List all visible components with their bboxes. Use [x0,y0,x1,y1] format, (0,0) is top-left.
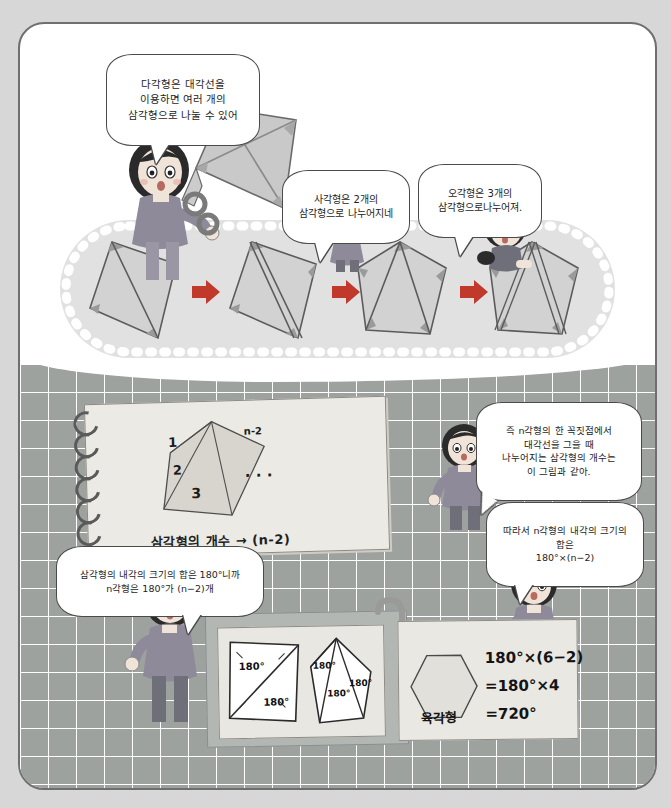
calc-line-3: =720° [485,704,537,723]
notebook-label-3: 3 [191,485,201,501]
hexagon-label: 육각형 [421,707,457,726]
bubble-left-girl-text: 삼각형의 내각의 크기의 합은 180°니까 n각형은 180°가 (n−2)개 [80,569,241,594]
bubble-pigtail-girl-text: 오각형은 3개의 삼각형으로나누어져. [438,188,522,214]
bubble-boy: 사각형은 2개의 삼각형으로 나누어지네 [282,170,410,244]
notebook: 1 2 3 n-2 · · · 삼각형의 개수 → (n-2) [84,396,390,558]
bubble-teacher-right-text: 즉 n각형의 한 꼭짓점에서 대각선을 그을 때 나누어지는 삼각형의 개수는 … [502,425,616,477]
notebook-label-2: 2 [173,463,182,478]
angle-label: 180° [313,660,336,670]
angle-label: 180° [349,678,372,688]
calc-line-2: =180°×4 [485,676,560,695]
bubble-tail [455,236,473,256]
notebook-label-n2: n-2 [244,425,263,437]
notebook-ellipsis: · · · [245,466,273,485]
bubble-boy-text: 사각형은 2개의 삼각형으로 나누어지네 [299,194,392,220]
bubble-tail [315,242,333,262]
angle-label: 180° [263,696,289,707]
bubble-tail [183,614,201,634]
bubble-pigtail-girl: 오각형은 3개의 삼각형으로나누어져. [418,164,542,238]
bubble-conclusion-text: 따라서 n각형의 내각의 크기의 합은 180°×(n−2) [503,525,626,564]
calc-line-1: 180°×(6−2) [485,648,584,667]
bubble-kite-girl: 다각형은 대각선을 이용하면 여러 개의 삼각형으로 나눌 수 있어 [106,54,260,146]
character-kite-girl [112,132,232,282]
bubble-tail [151,144,169,164]
board-hexagon-calc: 육각형 180°×(6−2) =180°×4 =720° [397,619,578,741]
bubble-tail [515,584,533,604]
bubble-teacher-right: 즉 n각형의 한 꼭짓점에서 대각선을 그을 때 나누어지는 삼각형의 개수는 … [476,402,642,501]
notebook-label-1: 1 [168,435,177,450]
bubble-conclusion: 따라서 n각형의 내각의 크기의 합은 180°×(n−2) [486,502,644,587]
worksheet-page: 1 2 3 n-2 · · · 삼각형의 개수 → (n-2) [18,22,657,790]
angle-label: 180° [327,688,350,698]
notebook-polygon-diagram: 1 2 3 n-2 · · · [133,413,326,524]
angle-label: 180° [239,661,265,672]
board-triangle-angles: 180° 180° 180° 180° 180° [217,625,386,740]
bubble-left-girl: 삼각형의 내각의 크기의 합은 180°니까 n각형은 180°가 (n−2)개 [56,546,264,617]
bubble-kite-girl-text: 다각형은 대각선을 이용하면 여러 개의 삼각형으로 나눌 수 있어 [128,78,238,120]
board-angle-diagrams: 180° 180° 180° 180° 180° [218,626,385,739]
